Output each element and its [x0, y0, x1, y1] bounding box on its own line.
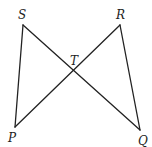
label-t: T [70, 54, 79, 68]
label-p: P [7, 131, 17, 145]
label-r: R [115, 8, 125, 22]
geometry-diagram: S R T P Q [0, 0, 152, 147]
segment-sp [15, 25, 23, 127]
segment-rp [15, 25, 120, 127]
label-s: S [18, 8, 26, 22]
label-q: Q [138, 134, 148, 147]
